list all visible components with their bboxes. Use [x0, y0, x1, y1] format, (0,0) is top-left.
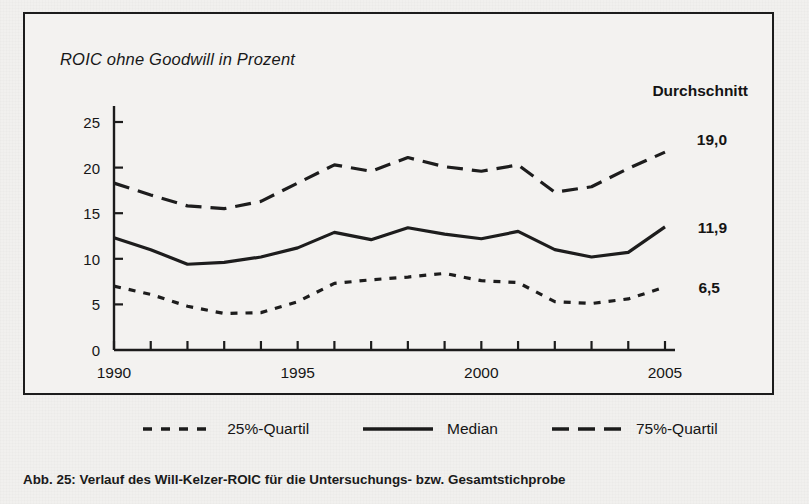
legend-item-q75: 75%-Quartil: [550, 420, 718, 438]
x-tick-label: 1995: [280, 364, 314, 381]
x-tick-label: 1990: [97, 364, 132, 381]
figure-caption: Abb. 25: Verlauf des Will-Kelzer-ROIC fü…: [23, 472, 783, 492]
series-line-solid: [114, 227, 665, 264]
legend-item-median: Median: [361, 420, 498, 438]
series-line-long-dash: [114, 152, 665, 209]
legend-label-q75: 75%-Quartil: [636, 420, 718, 438]
legend-label-q25: 25%-Quartil: [227, 420, 309, 438]
figure-page: ROIC ohne Goodwill in Prozent Durchschni…: [0, 0, 809, 504]
legend-swatch-solid: [361, 423, 435, 435]
legend-label-median: Median: [447, 420, 498, 438]
legend-swatch-short-dash: [141, 423, 215, 435]
axes-group: [114, 106, 675, 350]
y-tick-label: 5: [92, 296, 100, 313]
y-tick-label: 20: [83, 160, 100, 177]
chart-plot-area: 0510152025 1990199520002005: [25, 14, 772, 393]
legend-item-q25: 25%-Quartil: [141, 420, 309, 438]
x-axis-ticks: 1990199520002005: [97, 341, 682, 381]
y-tick-label: 25: [83, 114, 100, 131]
y-axis-ticks: 0510152025: [83, 114, 123, 359]
y-tick-label: 0: [92, 342, 100, 359]
figure-border-box: ROIC ohne Goodwill in Prozent Durchschni…: [23, 12, 774, 395]
data-series-group: [114, 152, 665, 313]
chart-legend: 25%-Quartil Median 75%-Quartil: [25, 412, 809, 446]
legend-swatch-long-dash: [550, 423, 624, 435]
y-tick-label: 10: [83, 251, 100, 268]
series-line-short-dash: [114, 273, 665, 313]
x-tick-label: 2005: [648, 364, 682, 381]
y-tick-label: 15: [83, 205, 100, 222]
figure-caption-clip: Abb. 25: Verlauf des Will-Kelzer-ROIC fü…: [23, 472, 785, 492]
x-tick-label: 2000: [464, 364, 499, 381]
